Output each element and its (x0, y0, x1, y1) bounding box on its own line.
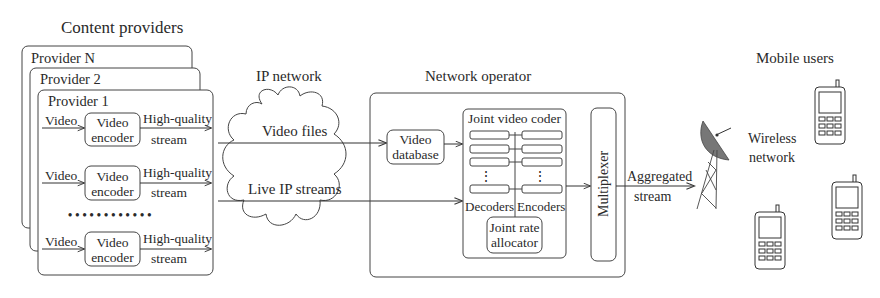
stream-label: stream (634, 189, 671, 204)
mobile-phone-icon (755, 205, 785, 269)
antenna-tower-icon (697, 121, 731, 209)
network-label: network (749, 150, 795, 165)
svg-text:stream: stream (151, 185, 187, 200)
decoders-label: Decoders (465, 199, 514, 214)
svg-text:High-quality: High-quality (143, 165, 212, 180)
wireless-label: Wireless (748, 131, 796, 146)
svg-text:Video: Video (96, 115, 128, 130)
decoders-vdots: ⋮ (479, 169, 493, 184)
provider-1-label: Provider 1 (48, 93, 109, 109)
multiplexer-label: Multiplexer (596, 151, 611, 217)
video-files-label: Video files (262, 123, 327, 139)
svg-text:Video: Video (45, 168, 77, 183)
encoders-label: Encoders (517, 199, 565, 214)
svg-text:Video: Video (45, 234, 77, 249)
provider-n-label: Provider N (31, 50, 96, 66)
encoders-vdots: ⋮ (533, 169, 547, 184)
svg-text:stream: stream (151, 132, 187, 147)
svg-text:allocator: allocator (491, 235, 539, 250)
network-operator-title: Network operator (425, 68, 531, 84)
content-providers-title: Content providers (61, 18, 183, 37)
svg-text:Video: Video (45, 113, 77, 128)
svg-text:encoder: encoder (91, 184, 134, 199)
svg-text:High-quality: High-quality (143, 111, 212, 126)
svg-text:High-quality: High-quality (143, 231, 212, 246)
svg-text:Video: Video (96, 235, 128, 250)
svg-text:database: database (392, 147, 438, 162)
mobile-users-title: Mobile users (756, 50, 834, 66)
svg-text:Video: Video (399, 132, 431, 147)
svg-text:Joint rate: Joint rate (490, 220, 540, 235)
ip-network-title: IP network (256, 68, 322, 84)
provider-2-label: Provider 2 (40, 71, 101, 87)
svg-text:stream: stream (151, 251, 187, 266)
cloud-icon (223, 87, 346, 225)
aggregated-label: Aggregated (627, 169, 692, 184)
svg-text:Video: Video (96, 169, 128, 184)
mobile-phone-icon (815, 80, 845, 144)
mobile-phone-icon (832, 175, 862, 239)
more-providers-ellipsis: • • • • • • • • • • • • (68, 208, 151, 222)
joint-video-coder-label: Joint video coder (468, 111, 561, 126)
system-diagram: Content providers Provider N Provider 2 … (0, 0, 880, 298)
live-ip-streams-label: Live IP streams (248, 181, 342, 197)
svg-text:encoder: encoder (91, 130, 134, 145)
svg-text:encoder: encoder (91, 250, 134, 265)
